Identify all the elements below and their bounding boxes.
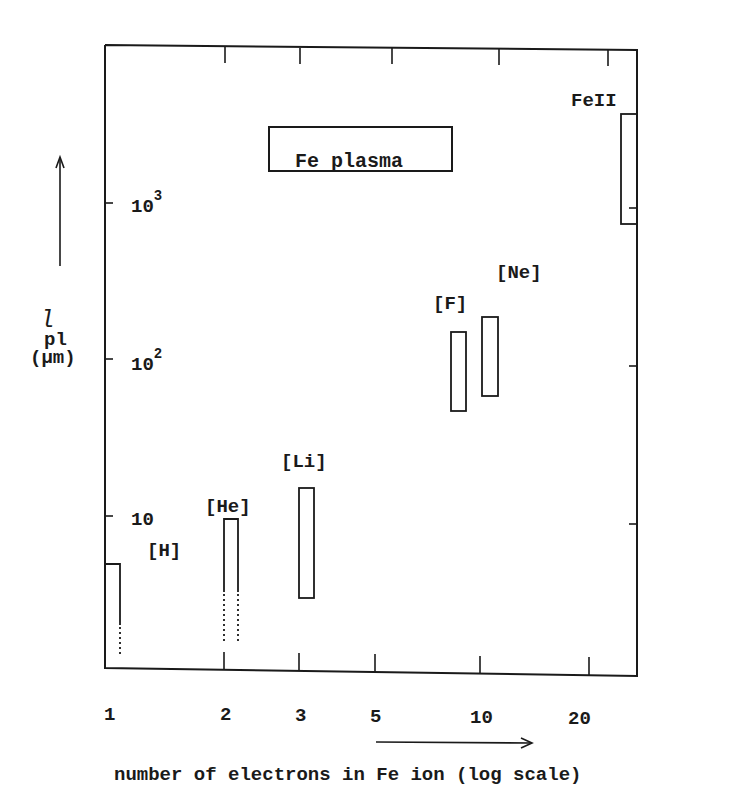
- ytick-label-1000: 103: [131, 188, 162, 218]
- x-axis-label: number of electrons in Fe ion (log scale…: [114, 764, 581, 786]
- xtick-label-5: 5: [370, 706, 381, 728]
- bar-Li: [299, 488, 314, 598]
- bar-label-Li: [Li]: [281, 451, 327, 473]
- bar-F: [451, 332, 466, 411]
- bar-label-FeII: FeII: [571, 90, 617, 112]
- bar-label-F: [F]: [433, 293, 467, 315]
- bar-label-Ne: [Ne]: [496, 262, 542, 284]
- xtick-label-10: 10: [470, 707, 493, 729]
- xtick-label-2: 2: [220, 704, 231, 726]
- xtick-label-3: 3: [295, 705, 306, 727]
- bar-Ne: [482, 317, 498, 396]
- bar-label-H: [H]: [147, 540, 181, 562]
- bar-H: [105, 564, 120, 657]
- bar-label-He: [He]: [205, 496, 251, 518]
- xtick-labels: 1 2 3 5 10 20: [104, 704, 591, 730]
- bar-He: [224, 519, 238, 643]
- y-axis-arrow-icon: [56, 157, 64, 266]
- x-axis-arrow-icon: [376, 738, 532, 748]
- fe-plasma-label: Fe plasma: [295, 150, 403, 173]
- y-axis-unit: (µm): [30, 347, 76, 369]
- chart-svg: 103 102 10 1 2 3 5 10 20 Fe plasma [H] […: [0, 0, 735, 806]
- xtick-label-20: 20: [568, 708, 591, 730]
- ytick-label-100: 102: [131, 346, 162, 376]
- right-y-ticks: [629, 208, 637, 524]
- xtick-label-1: 1: [104, 704, 115, 726]
- figure: 103 102 10 1 2 3 5 10 20 Fe plasma [H] […: [0, 0, 735, 806]
- plot-frame: [105, 45, 637, 676]
- ytick-label-10: 10: [131, 509, 154, 531]
- left-y-ticks: [105, 203, 113, 516]
